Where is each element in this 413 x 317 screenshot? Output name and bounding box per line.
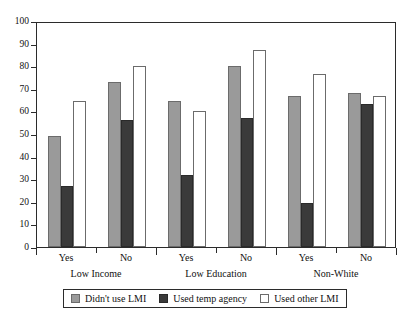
y-tick-label: 90 xyxy=(5,40,29,50)
plot-area xyxy=(37,23,395,247)
x-category-label: No xyxy=(336,253,396,264)
x-category-label: Yes xyxy=(36,253,96,264)
legend-swatch-icon xyxy=(71,294,80,303)
bar-used-other-lmi-3 xyxy=(253,50,266,247)
legend-item: Used other LMI xyxy=(260,294,338,304)
x-category-label: No xyxy=(96,253,156,264)
bar-didn-t-use-lmi-0 xyxy=(48,136,61,247)
y-tick-label: 30 xyxy=(5,175,29,185)
y-tick-mark xyxy=(31,90,36,91)
y-tick-label: 40 xyxy=(5,153,29,163)
x-group-label: Low Education xyxy=(156,269,276,280)
x-group-label: Non-White xyxy=(276,269,396,280)
bar-used-temp-agency-4 xyxy=(301,203,314,247)
chart-legend: Didn't use LMIUsed temp agencyUsed other… xyxy=(63,289,347,308)
x-tick-mark xyxy=(156,248,157,255)
bar-used-temp-agency-5 xyxy=(361,104,374,248)
bar-used-temp-agency-0 xyxy=(61,186,74,247)
legend-label: Didn't use LMI xyxy=(85,294,146,304)
x-category-label: Yes xyxy=(156,253,216,264)
plot-frame xyxy=(36,22,396,248)
x-tick-mark xyxy=(276,248,277,255)
y-tick-mark xyxy=(31,158,36,159)
legend-swatch-icon xyxy=(159,294,168,303)
y-tick-mark xyxy=(31,203,36,204)
bar-used-temp-agency-1 xyxy=(121,120,134,247)
x-category-label: Yes xyxy=(276,253,336,264)
y-tick-mark xyxy=(31,22,36,23)
legend-item: Didn't use LMI xyxy=(71,294,146,304)
bar-didn-t-use-lmi-2 xyxy=(168,101,181,247)
y-tick-mark xyxy=(31,112,36,113)
y-tick-mark xyxy=(31,225,36,226)
x-tick-mark xyxy=(36,248,37,255)
y-tick-label: 80 xyxy=(5,62,29,72)
bar-used-other-lmi-1 xyxy=(133,66,146,247)
bar-didn-t-use-lmi-1 xyxy=(108,82,121,247)
y-tick-label: 100 xyxy=(5,17,29,27)
y-tick-mark xyxy=(31,45,36,46)
bar-used-other-lmi-5 xyxy=(373,96,386,247)
y-tick-mark xyxy=(31,180,36,181)
y-tick-mark xyxy=(31,135,36,136)
x-tick-mark xyxy=(396,248,397,255)
bar-didn-t-use-lmi-3 xyxy=(228,66,241,247)
x-tick-mark xyxy=(336,248,337,253)
y-tick-label: 60 xyxy=(5,107,29,117)
bar-used-other-lmi-0 xyxy=(73,101,86,247)
bar-didn-t-use-lmi-5 xyxy=(348,93,361,247)
y-tick-label: 50 xyxy=(5,130,29,140)
legend-label: Used other LMI xyxy=(274,294,338,304)
x-category-label: No xyxy=(216,253,276,264)
x-tick-mark xyxy=(96,248,97,253)
bar-used-temp-agency-2 xyxy=(181,175,194,247)
bar-used-other-lmi-4 xyxy=(313,74,326,247)
bar-chart: 0102030405060708090100 YesNoYesNoYesNoLo… xyxy=(0,0,413,317)
y-tick-label: 0 xyxy=(5,243,29,253)
y-tick-label: 70 xyxy=(5,85,29,95)
y-tick-label: 10 xyxy=(5,220,29,230)
bar-didn-t-use-lmi-4 xyxy=(288,96,301,247)
y-tick-mark xyxy=(31,67,36,68)
legend-swatch-icon xyxy=(260,294,269,303)
y-tick-label: 20 xyxy=(5,198,29,208)
bar-used-temp-agency-3 xyxy=(241,118,254,247)
legend-item: Used temp agency xyxy=(159,294,247,304)
bar-used-other-lmi-2 xyxy=(193,111,206,247)
x-group-label: Low Income xyxy=(36,269,156,280)
legend-label: Used temp agency xyxy=(173,294,247,304)
x-tick-mark xyxy=(216,248,217,253)
